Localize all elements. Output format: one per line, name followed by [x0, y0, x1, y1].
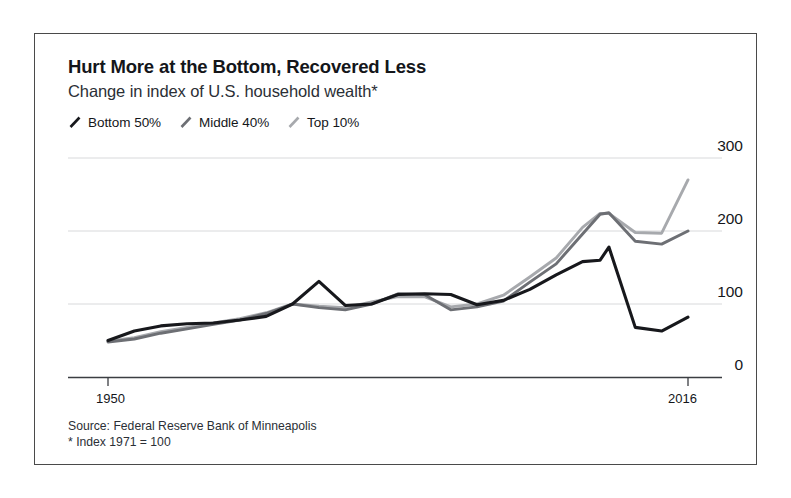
- index-footnote: * Index 1971 = 100: [68, 435, 171, 449]
- x-tick-label-2016: 2016: [668, 391, 697, 406]
- legend-label: Top 10%: [307, 115, 359, 130]
- x-tick-label-1950: 1950: [96, 391, 125, 406]
- line-slash-icon: [287, 115, 301, 129]
- y-tick-label-100: 100: [717, 283, 743, 301]
- y-tick-label-0: 0: [734, 356, 743, 374]
- y-tick-label-300: 300: [717, 137, 743, 155]
- chart-subtitle: Change in index of U.S. household wealth…: [68, 82, 378, 101]
- chart-figure: Hurt More at the Bottom, Recovered Less …: [0, 0, 791, 498]
- source-note: Source: Federal Reserve Bank of Minneapo…: [68, 419, 317, 433]
- legend-item-bottom-50: Bottom 50%: [68, 115, 161, 130]
- legend-item-middle-40: Middle 40%: [179, 115, 269, 130]
- chart-title: Hurt More at the Bottom, Recovered Less: [68, 56, 426, 78]
- legend-label: Bottom 50%: [88, 115, 161, 130]
- line-slash-icon: [68, 115, 82, 129]
- legend-item-top-10: Top 10%: [287, 115, 359, 130]
- legend-label: Middle 40%: [199, 115, 269, 130]
- chart-legend: Bottom 50% Middle 40% Top 10%: [68, 112, 359, 132]
- y-tick-label-200: 200: [717, 210, 743, 228]
- line-slash-icon: [179, 115, 193, 129]
